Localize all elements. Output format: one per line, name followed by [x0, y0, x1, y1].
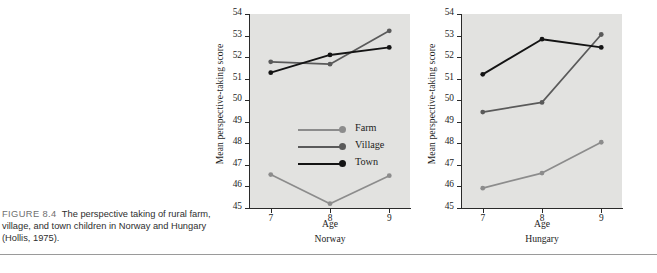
figure-number: FIGURE 8.4: [2, 209, 57, 219]
y-axis-tick-label: 53: [445, 29, 454, 39]
series-lines: [250, 14, 410, 208]
data-point-farm: [599, 140, 604, 145]
page-divider-rule: [0, 254, 657, 255]
y-axis-tick-label: 54: [445, 7, 454, 17]
y-axis-tick-label: 54: [233, 7, 242, 17]
legend-item-village: Village: [298, 139, 416, 156]
series-lines: [462, 14, 622, 208]
data-point-town: [328, 53, 333, 58]
y-axis-tick-label: 47: [445, 158, 454, 168]
data-point-farm: [387, 173, 392, 178]
legend-marker-icon: [339, 126, 346, 133]
legend-marker-icon: [339, 143, 346, 150]
data-point-town: [599, 45, 604, 50]
data-point-village: [387, 28, 392, 33]
figure-caption: FIGURE 8.4 The perspective taking of rur…: [2, 208, 212, 245]
chart-panel-norway: Mean perspective-taking score 4546474849…: [218, 0, 423, 250]
data-point-village: [599, 32, 604, 37]
series-line-village: [271, 31, 390, 64]
series-line-town: [483, 39, 602, 74]
data-point-farm: [480, 186, 485, 191]
y-axis-tick-label: 49: [445, 115, 454, 125]
y-axis-tick-label: 52: [445, 50, 454, 60]
y-axis-tick: 45: [245, 208, 250, 209]
panel-caption-norway: Norway: [250, 233, 410, 244]
plot-wrapper: 45464748495051525354 789 FarmVillageTown: [250, 14, 410, 208]
data-point-village: [268, 59, 273, 64]
legend-line-icon: [298, 163, 343, 165]
data-point-village: [540, 100, 545, 105]
y-axis-tick-label: 48: [445, 136, 454, 146]
y-axis-tick-label: 47: [233, 158, 242, 168]
data-point-farm: [328, 201, 333, 206]
data-point-farm: [540, 171, 545, 176]
y-axis-tick-label: 53: [233, 29, 242, 39]
y-axis-tick-label: 48: [233, 136, 242, 146]
legend-marker-icon: [339, 160, 346, 167]
data-point-town: [387, 45, 392, 50]
x-axis-title: Age: [250, 218, 410, 229]
y-axis-title: Mean perspective-taking score: [426, 14, 440, 194]
y-axis-title: Mean perspective-taking score: [214, 14, 228, 194]
series-line-farm: [483, 142, 602, 188]
legend-item-town: Town: [298, 156, 416, 173]
y-axis-tick-label: 52: [233, 50, 242, 60]
data-point-town: [540, 37, 545, 42]
y-axis-tick-label: 45: [445, 201, 454, 211]
series-line-town: [271, 47, 390, 72]
y-axis-tick-label: 46: [233, 179, 242, 189]
data-point-village: [480, 110, 485, 115]
legend-label: Village: [355, 139, 384, 150]
y-axis-tick-label: 50: [445, 93, 454, 103]
data-point-farm: [268, 172, 273, 177]
legend-line-icon: [298, 129, 343, 131]
chart-panel-hungary: Mean perspective-taking score 4546474849…: [430, 0, 635, 250]
y-axis-tick-label: 46: [445, 179, 454, 189]
y-axis-tick-label: 50: [233, 93, 242, 103]
chart-legend: FarmVillageTown: [298, 122, 416, 173]
legend-item-farm: Farm: [298, 122, 416, 139]
legend-label: Town: [355, 156, 378, 167]
legend-line-icon: [298, 146, 343, 148]
series-line-farm: [271, 175, 390, 204]
data-point-village: [328, 62, 333, 67]
data-point-town: [268, 70, 273, 75]
legend-label: Farm: [355, 122, 377, 133]
y-axis-tick-label: 51: [445, 72, 454, 82]
panel-caption-hungary: Hungary: [462, 233, 622, 244]
y-axis-tick-label: 45: [233, 201, 242, 211]
plot-wrapper: 45464748495051525354 789: [462, 14, 622, 208]
y-axis-tick-label: 51: [233, 72, 242, 82]
data-point-town: [480, 72, 485, 77]
x-axis-title: Age: [462, 218, 622, 229]
y-axis-tick-label: 49: [233, 115, 242, 125]
y-axis-tick: 45: [457, 208, 462, 209]
